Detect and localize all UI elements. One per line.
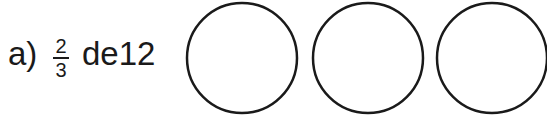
circle-1 <box>187 3 297 113</box>
circles-diagram <box>0 0 547 122</box>
circle-3 <box>437 3 547 113</box>
circle-2 <box>313 3 423 113</box>
